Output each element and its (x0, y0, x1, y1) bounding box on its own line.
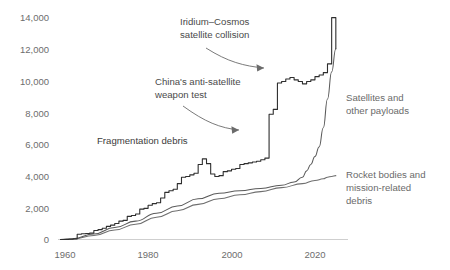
china-asat-arrowhead (231, 126, 239, 133)
y-tick-label: 14,000 (20, 12, 49, 23)
iridium-cosmos-label-line1: Iridium–Cosmos (180, 16, 250, 27)
legend-rocket-line1: Rocket bodies and (346, 169, 425, 180)
china-asat-arrow (183, 106, 239, 130)
x-tick-label: 2020 (304, 249, 325, 260)
y-tick-label: 0 (44, 234, 49, 245)
x-tick-label: 2000 (221, 249, 242, 260)
legend-satellites-line1: Satellites and (346, 92, 404, 103)
iridium-cosmos-arrow (206, 48, 264, 68)
iridium-cosmos-label-line2: satellite collision (180, 29, 249, 40)
y-tick-label: 10,000 (20, 76, 49, 87)
series-group (61, 18, 336, 240)
y-tick-label: 4,000 (25, 171, 49, 182)
china-asat-label-line2: weapon test (154, 89, 207, 100)
y-tick-label: 2,000 (25, 203, 49, 214)
chart-canvas: 14,000 12,000 10,000 8,000 6,000 4,000 2… (0, 0, 450, 270)
legend-rocket-line2: mission-related (346, 182, 411, 193)
fragmentation-debris-label: Fragmentation debris (97, 135, 188, 146)
series-line-fragmentation (61, 18, 336, 240)
legend-rocket-line3: debris (346, 195, 372, 206)
y-tick-label: 6,000 (25, 139, 49, 150)
x-axis-ticks: 1960 1980 2000 2020 (54, 249, 325, 260)
china-asat-label-line1: China's anti-satellite (155, 76, 241, 87)
y-axis-ticks: 14,000 12,000 10,000 8,000 6,000 4,000 2… (20, 12, 49, 245)
space-objects-chart: 14,000 12,000 10,000 8,000 6,000 4,000 2… (0, 0, 450, 270)
x-tick-label: 1960 (54, 249, 75, 260)
y-tick-label: 12,000 (20, 44, 49, 55)
legend-satellites-line2: other payloads (346, 105, 409, 116)
iridium-cosmos-arrowhead (257, 64, 265, 71)
y-tick-label: 8,000 (25, 108, 49, 119)
annotation-labels: Iridium–Cosmos satellite collision China… (97, 16, 250, 146)
x-tick-label: 1980 (137, 249, 158, 260)
legend-group: Satellites and other payloads Rocket bod… (346, 92, 425, 206)
